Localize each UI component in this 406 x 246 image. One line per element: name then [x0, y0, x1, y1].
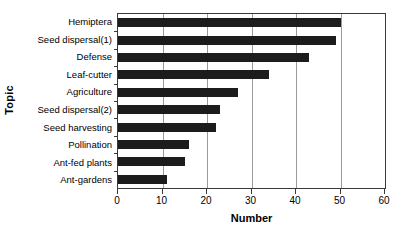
x-axis-tick-label: 50: [334, 195, 345, 206]
category-label: Ant-fed plants: [16, 154, 116, 172]
bar: [118, 175, 167, 184]
bar-row: [118, 118, 385, 135]
x-axis-tick: [117, 189, 118, 194]
x-axis-tick: [206, 189, 207, 194]
x-axis: 0102030405060: [117, 189, 386, 213]
x-axis-tick: [295, 189, 296, 194]
category-label: Defense: [16, 48, 116, 66]
y-axis-title-label: Topic: [3, 85, 15, 115]
bar-row: [118, 14, 385, 31]
bar: [118, 105, 220, 114]
bar: [118, 36, 336, 45]
x-axis-tick: [162, 189, 163, 194]
x-axis-tick-label: 60: [378, 195, 389, 206]
bar: [118, 88, 238, 97]
category-label: Seed dispersal(2): [16, 101, 116, 119]
bar: [118, 70, 269, 79]
x-axis-tick: [340, 189, 341, 194]
x-axis-tick-label: 0: [114, 195, 120, 206]
category-label: Pollination: [16, 136, 116, 154]
x-axis-tick: [251, 189, 252, 194]
category-label: Seed dispersal(1): [16, 31, 116, 49]
bar-row: [118, 171, 385, 188]
x-axis-tick: [384, 189, 385, 194]
x-axis-tick-label: 10: [156, 195, 167, 206]
category-label: Seed harvesting: [16, 119, 116, 137]
horizontal-bar-chart: Topic Hemiptera Seed dispersal(1) Defens…: [0, 0, 406, 246]
bar-row: [118, 153, 385, 170]
bar: [118, 53, 309, 62]
bar-row: [118, 49, 385, 66]
bar-row: [118, 101, 385, 118]
bar-row: [118, 84, 385, 101]
x-axis-title: Number: [117, 212, 386, 224]
plot-area: [117, 13, 386, 189]
category-label: Leaf-cutter: [16, 66, 116, 84]
bar-row: [118, 31, 385, 48]
category-label: Ant-gardens: [16, 171, 116, 189]
x-axis-tick-label: 40: [289, 195, 300, 206]
bar: [118, 18, 341, 27]
bar: [118, 157, 185, 166]
category-label: Hemiptera: [16, 13, 116, 31]
bar: [118, 123, 216, 132]
x-axis-tick-label: 20: [200, 195, 211, 206]
category-label: Agriculture: [16, 83, 116, 101]
bars-layer: [118, 14, 385, 188]
bar-row: [118, 136, 385, 153]
category-axis: Hemiptera Seed dispersal(1) Defense Leaf…: [16, 13, 116, 189]
bar-row: [118, 66, 385, 83]
x-axis-tick-label: 30: [245, 195, 256, 206]
bar: [118, 140, 189, 149]
